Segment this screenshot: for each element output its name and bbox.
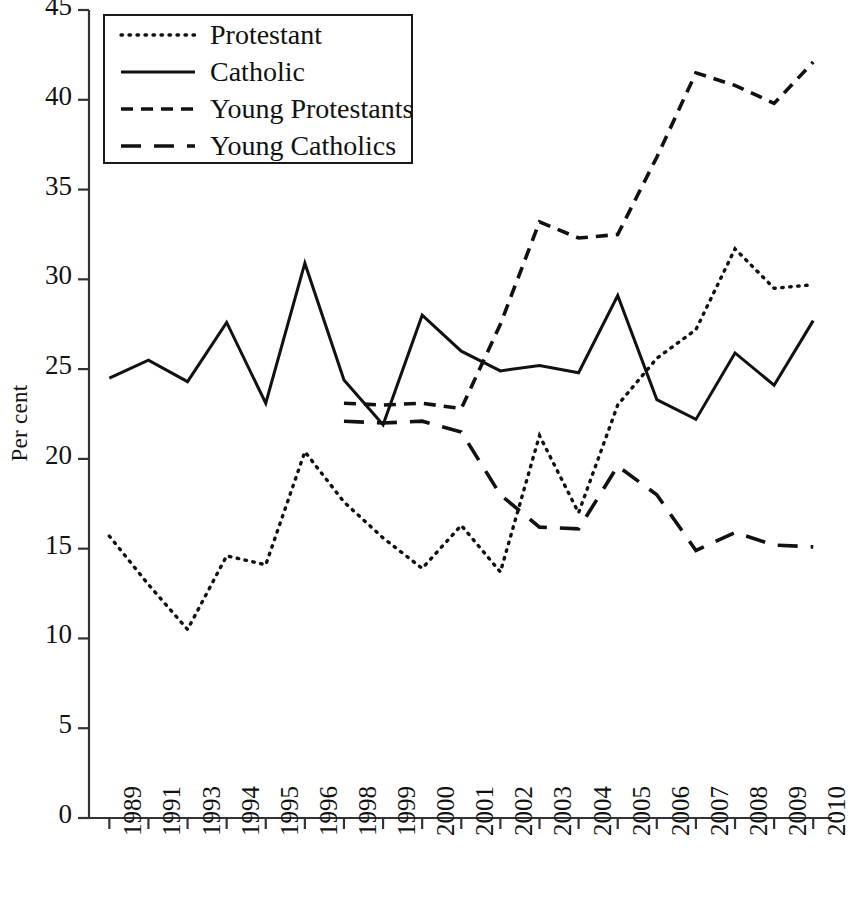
series-line-protestant [109, 249, 813, 630]
long-dash-line-key [105, 139, 210, 153]
x-tick-label: 2001 [471, 786, 499, 836]
y-tick-label: 15 [17, 530, 72, 561]
short-dash-line-key [105, 102, 210, 116]
x-tick-label: 2003 [549, 786, 577, 836]
y-tick-label: 10 [17, 619, 72, 650]
solid-line-key [105, 65, 210, 79]
x-tick-label: 2009 [784, 786, 812, 836]
y-tick-label: 0 [17, 799, 72, 830]
x-tick-label: 1996 [315, 786, 343, 836]
x-tick-label: 2010 [823, 786, 850, 836]
dotted-line-key [105, 28, 210, 42]
x-tick-label: 2006 [667, 786, 695, 836]
y-tick-label: 45 [17, 0, 72, 22]
x-tick-label: 2008 [745, 786, 773, 836]
x-tick-label: 2004 [589, 786, 617, 836]
legend-label: Catholic [210, 56, 305, 88]
x-tick-label: 1991 [158, 786, 186, 836]
x-tick-label: 1995 [276, 786, 304, 836]
legend: ProtestantCatholicYoung ProtestantsYoung… [103, 14, 413, 164]
x-tick-label: 2007 [706, 786, 734, 836]
y-axis-ticks [78, 10, 89, 818]
legend-item: Young Protestants [105, 90, 411, 127]
legend-item: Protestant [105, 16, 411, 53]
legend-label: Protestant [210, 19, 322, 51]
x-tick-label: 1993 [198, 786, 226, 836]
legend-label: Young Protestants [210, 93, 413, 125]
series-line-young-catholics [344, 421, 813, 550]
x-tick-label: 1989 [119, 786, 147, 836]
y-axis-title: Per cent [7, 363, 33, 483]
y-tick-label: 5 [17, 709, 72, 740]
y-tick-label: 40 [17, 81, 72, 112]
legend-item: Catholic [105, 53, 411, 90]
x-tick-label: 2005 [628, 786, 656, 836]
x-tick-label: 2002 [510, 786, 538, 836]
x-tick-label: 1999 [393, 786, 421, 836]
x-tick-label: 1994 [237, 786, 265, 836]
x-tick-label: 1998 [354, 786, 382, 836]
y-tick-label: 30 [17, 260, 72, 291]
y-tick-label: 35 [17, 171, 72, 202]
series-line-catholic [109, 263, 813, 425]
legend-label: Young Catholics [210, 130, 396, 162]
legend-item: Young Catholics [105, 127, 411, 164]
x-tick-label: 2000 [432, 786, 460, 836]
series-line-young-protestants [344, 62, 813, 409]
